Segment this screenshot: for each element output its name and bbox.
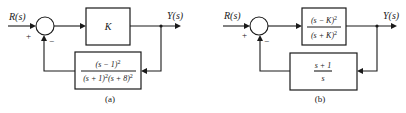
minus-sign-b: − (264, 36, 269, 46)
summing-junction-a (36, 17, 54, 35)
forward-gain-a: K (104, 21, 113, 32)
feedback-line-right-a (144, 26, 161, 71)
feedback-numerator-a: (s − 1)2 (96, 59, 121, 69)
output-label-a: Y(s) (167, 10, 184, 22)
arrow-head-icon (30, 23, 36, 29)
caption-a: (a) (105, 94, 115, 104)
diagram-a: R(s) + − K Y(s) (s − 1)2 (s + 1)2(s + 8)… (8, 8, 184, 104)
forward-numerator-b: (s − K)2 (311, 15, 337, 25)
feedback-denominator-b: s (321, 74, 324, 83)
diagram-b: R(s) + − (s − K)2 (s + K)2 Y(s) s + 1 s … (223, 8, 400, 104)
block-diagrams: R(s) + − K Y(s) (s − 1)2 (s + 1)2(s + 8)… (0, 0, 406, 113)
input-label-b: R(s) (223, 10, 241, 22)
arrow-head-icon (244, 23, 250, 29)
arrow-head-icon (80, 23, 86, 29)
arrow-head-icon (257, 35, 263, 41)
feedback-line-right-b (360, 26, 377, 71)
summing-junction-b (250, 17, 268, 35)
minus-sign-a: − (49, 36, 54, 46)
feedback-numerator-b: s + 1 (315, 61, 332, 70)
plus-sign-a: + (26, 31, 31, 41)
forward-denominator-b: (s + K)2 (311, 30, 337, 40)
output-label-b: Y(s) (383, 10, 400, 22)
arrow-head-icon (41, 35, 47, 41)
arrow-head-icon (175, 23, 181, 29)
arrow-head-icon (296, 23, 302, 29)
input-label-a: R(s) (8, 11, 26, 23)
arrow-head-icon (391, 23, 397, 29)
arrow-head-icon (357, 68, 363, 74)
plus-sign-b: + (242, 30, 247, 40)
caption-b: (b) (315, 94, 326, 104)
arrow-head-icon (141, 68, 147, 74)
feedback-denominator-a: (s + 1)2(s + 8)2 (83, 73, 133, 83)
